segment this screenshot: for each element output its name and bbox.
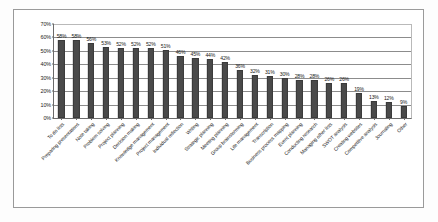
bar-slot: 58%Preparing presentations [69, 24, 84, 118]
bar [386, 102, 392, 118]
x-axis-tick-mark [299, 118, 300, 120]
x-axis-tick-mark [61, 118, 62, 120]
bar-value-label: 46% [176, 49, 186, 55]
x-axis-tick-mark [91, 118, 92, 120]
bar-value-label: 36% [235, 63, 245, 69]
bar-slot: 28%Conducting research [307, 24, 322, 118]
bar-slot: 28%Event planning [292, 24, 307, 118]
bar-slot: 52%Knowledge management [143, 24, 158, 118]
bar-slot: 9%Other [396, 24, 411, 118]
bar [341, 83, 347, 118]
chart-outer-frame: 70%60%50%40%30%20%10%0% 58%To do lists58… [13, 9, 424, 208]
bar [207, 59, 213, 118]
x-axis-tick-mark [106, 118, 107, 120]
bar-value-label: 53% [101, 40, 111, 46]
bar-value-label: 58% [57, 33, 67, 39]
x-axis-tick-mark [225, 118, 226, 120]
x-axis-tick-mark [210, 118, 211, 120]
bar-slot: 31%Transcription [262, 24, 277, 118]
bar-slot: 26%Managing other lists [322, 24, 337, 118]
x-axis-tick-mark [136, 118, 137, 120]
bar-value-label: 28% [295, 73, 305, 79]
bar-chart-figure: 70%60%50%40%30%20%10%0% 58%To do lists58… [0, 0, 438, 222]
bar [371, 101, 377, 118]
x-axis-tick-mark [285, 118, 286, 120]
x-axis-tick-mark [180, 118, 181, 120]
bar [58, 40, 64, 118]
bar-slot: 26%SWOT analysis [337, 24, 352, 118]
bar-value-label: 52% [146, 41, 156, 47]
bar-value-label: 32% [250, 68, 260, 74]
bar-slot: 30%Business process mapping [277, 24, 292, 118]
bar-value-label: 58% [72, 33, 82, 39]
x-axis-tick-mark [121, 118, 122, 120]
y-axis-tick-label: 60% [41, 34, 52, 40]
x-axis-tick-mark [76, 118, 77, 120]
bar-slot: 46%Individual reflection [173, 24, 188, 118]
bar [73, 40, 79, 118]
bar-value-label: 44% [205, 52, 215, 58]
x-axis-tick-mark [374, 118, 375, 120]
plot-area: 70%60%50%40%30%20%10%0% 58%To do lists58… [53, 24, 412, 119]
bar-value-label: 52% [131, 41, 141, 47]
bar-slot: 56%Note taking [84, 24, 99, 118]
bar-slot: 12%Journaling [381, 24, 396, 118]
x-axis-tick-mark [255, 118, 256, 120]
bars-layer: 58%To do lists58%Preparing presentations… [54, 24, 411, 118]
x-axis-tick-mark [344, 118, 345, 120]
bar [252, 75, 258, 118]
y-axis-tick-label: 70% [41, 21, 52, 27]
x-axis-tick-mark [270, 118, 271, 120]
bar [296, 80, 302, 118]
bar [237, 70, 243, 118]
x-axis-category-label: Other [395, 121, 408, 134]
bar [133, 48, 139, 118]
x-axis-tick-mark [314, 118, 315, 120]
bar [192, 58, 198, 118]
y-axis-tick-label: 10% [41, 102, 52, 108]
bar [311, 80, 317, 118]
y-axis-tick-label: 30% [41, 75, 52, 81]
x-axis-tick-mark [359, 118, 360, 120]
bar-value-label: 45% [191, 51, 201, 57]
bar-value-label: 12% [384, 95, 394, 101]
y-axis-tick-label: 40% [41, 61, 52, 67]
bar-value-label: 19% [354, 86, 364, 92]
bar-slot: 32%Life management [247, 24, 262, 118]
bar-value-label: 42% [220, 55, 230, 61]
bar [222, 62, 228, 118]
bar-slot: 52%Project planning [114, 24, 129, 118]
bar [162, 50, 168, 118]
bar-value-label: 52% [116, 41, 126, 47]
x-axis-tick-mark [389, 118, 390, 120]
bar-slot: 19%Creating websites [352, 24, 367, 118]
bar-slot: 51%Project management [158, 24, 173, 118]
bar [177, 56, 183, 118]
bar-value-label: 31% [265, 69, 275, 75]
y-axis-tick-label: 50% [41, 48, 52, 54]
bar [267, 76, 273, 118]
bar-slot: 52%Decision making [128, 24, 143, 118]
bar-value-label: 26% [324, 76, 334, 82]
x-axis-tick-mark [195, 118, 196, 120]
bar [281, 78, 287, 118]
bar-slot: 42%Meeting planning [218, 24, 233, 118]
bar-value-label: 26% [339, 76, 349, 82]
bar-value-label: 28% [310, 73, 320, 79]
bar [88, 43, 94, 118]
bar-value-label: 13% [369, 94, 379, 100]
bar-value-label: 30% [280, 71, 290, 77]
bar [118, 48, 124, 118]
x-axis-tick-mark [329, 118, 330, 120]
bar-value-label: 9% [400, 99, 407, 105]
x-axis-tick-mark [166, 118, 167, 120]
y-axis-tick-label: 20% [41, 88, 52, 94]
x-axis-tick-mark [151, 118, 152, 120]
bar [103, 47, 109, 118]
bar [356, 93, 362, 119]
y-axis-tick-label: 0% [43, 115, 51, 121]
bar-slot: 45%Writing [188, 24, 203, 118]
bar [400, 106, 406, 118]
x-axis-tick-mark [404, 118, 405, 120]
bar-value-label: 51% [161, 43, 171, 49]
